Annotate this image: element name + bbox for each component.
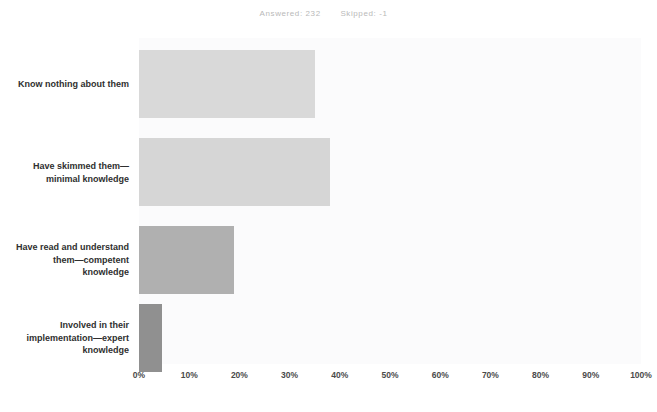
x-tick-label: 30% — [270, 370, 310, 380]
category-label: Know nothing about them — [9, 78, 129, 91]
chart-row: Know nothing about them — [0, 50, 647, 118]
skipped-count: Skipped: -1 — [340, 9, 387, 18]
category-label: Involved in their implementation—expert … — [9, 319, 129, 357]
x-tick-label: 100% — [621, 370, 657, 380]
bar-have-read-understand[interactable] — [139, 226, 234, 294]
chart-row: Have read and understand them—competent … — [0, 226, 647, 294]
x-tick-label: 10% — [169, 370, 209, 380]
chart-row: Have skimmed them—minimal knowledge — [0, 138, 647, 206]
x-tick-label: 60% — [420, 370, 460, 380]
bar-chart: Know nothing about them Have skimmed the… — [0, 26, 647, 396]
x-axis: 0%10%20%30%40%50%60%70%80%90%100% — [0, 370, 647, 390]
category-label: Have skimmed them—minimal knowledge — [9, 160, 129, 185]
x-tick-label: 20% — [219, 370, 259, 380]
x-tick-label: 90% — [571, 370, 611, 380]
chart-summary-header: Answered: 232 Skipped: -1 — [0, 9, 647, 18]
bar-have-skimmed[interactable] — [139, 138, 330, 206]
x-tick-label: 80% — [521, 370, 561, 380]
x-tick-label: 50% — [370, 370, 410, 380]
x-tick-label: 0% — [119, 370, 159, 380]
chart-rows: Know nothing about them Have skimmed the… — [0, 38, 647, 364]
category-label: Have read and understand them—competent … — [9, 241, 129, 279]
x-tick-label: 40% — [320, 370, 360, 380]
bar-know-nothing[interactable] — [139, 50, 315, 118]
answered-count: Answered: 232 — [260, 9, 321, 18]
bar-involved-implementation[interactable] — [139, 304, 162, 372]
x-tick-label: 70% — [470, 370, 510, 380]
chart-row: Involved in their implementation—expert … — [0, 304, 647, 372]
